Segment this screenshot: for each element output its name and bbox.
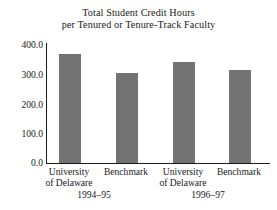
category-label-4-line-1: Benchmark (202, 166, 276, 177)
x-axis-line (46, 163, 270, 164)
y-tick-label-100: 100.0 (1, 129, 43, 139)
category-label-1-line-2: of Delaware (32, 177, 106, 188)
category-label-4: Benchmark (202, 166, 276, 177)
group-label-1994-95: 1994–95 (38, 189, 150, 200)
category-label-3-line-2: of Delaware (146, 177, 220, 188)
bar-1996-97-benchmark (229, 70, 251, 163)
bar-1994-95-university-of-delaware (59, 54, 81, 164)
y-tick-label-200: 200.0 (1, 100, 43, 110)
chart-figure: Total Student Credit Hours per Tenured o… (0, 0, 277, 210)
y-tick-label-400: 400.0 (1, 40, 43, 50)
y-tick-label-300: 300.0 (1, 70, 43, 80)
x-axis-category-labels: University of Delaware Benchmark Univers… (46, 166, 270, 190)
bar-series (47, 43, 270, 163)
x-axis-group-labels: 1994–95 1996–97 (46, 189, 270, 205)
group-label-1996-97: 1996–97 (152, 189, 264, 200)
bar-1996-97-university-of-delaware (173, 62, 195, 163)
bar-1994-95-benchmark (116, 73, 138, 163)
